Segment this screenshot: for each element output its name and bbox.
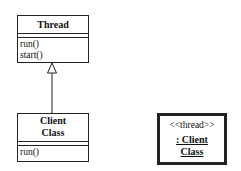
class-name-line-1: Client [18,115,88,127]
object-name-line-2: Class [181,146,204,157]
operation: start() [20,50,86,61]
operation: run() [20,147,86,158]
thread-class-box: Thread run() start() [17,15,89,63]
class-name-line-2: Class [18,127,88,139]
operations-compartment: run() [18,146,88,159]
class-name: Client Class [18,114,88,141]
object-name: : Client Class [160,134,224,158]
client-class-box: Client Class run() [17,113,89,162]
object-name-line-1: : Client [176,134,208,145]
operations-compartment: run() start() [18,38,88,62]
class-name: Thread [18,16,88,33]
active-object-box: <<thread>> : Client Class [157,113,227,165]
generalization-arrowhead-icon [48,63,57,73]
stereotype-label: <<thread>> [160,120,224,131]
operation: run() [20,39,86,50]
